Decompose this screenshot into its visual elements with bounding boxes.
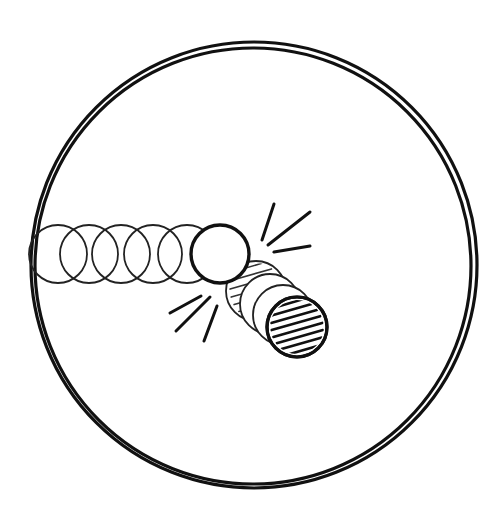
impact-spark-line	[268, 212, 310, 245]
striker-ball	[191, 225, 249, 283]
target-ball	[267, 297, 327, 357]
diagram-canvas	[0, 0, 504, 518]
impact-spark-line	[262, 204, 274, 240]
striker-trail-ghost-circle	[124, 225, 182, 283]
impact-spark-line	[274, 246, 310, 252]
impact-spark-lines-lower	[170, 296, 217, 341]
striker-trail-ghost-circle	[29, 225, 87, 283]
striker-trail-ghost-circle	[60, 225, 118, 283]
impact-spark-line	[204, 306, 217, 341]
impact-spark-lines-upper	[262, 204, 310, 252]
striker-trail-ghost-circle	[92, 225, 150, 283]
collision-diagram	[0, 0, 504, 518]
impact-spark-line	[176, 297, 210, 331]
striker-ball-motion-trail	[29, 225, 216, 283]
